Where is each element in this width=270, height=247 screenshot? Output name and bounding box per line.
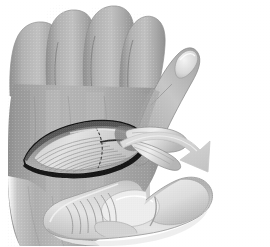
surgical-illustration-figure: Dorsoradial approach to the thumb carpom… xyxy=(0,0,270,247)
illustration-canvas xyxy=(0,0,270,247)
global-halftone xyxy=(0,0,270,247)
